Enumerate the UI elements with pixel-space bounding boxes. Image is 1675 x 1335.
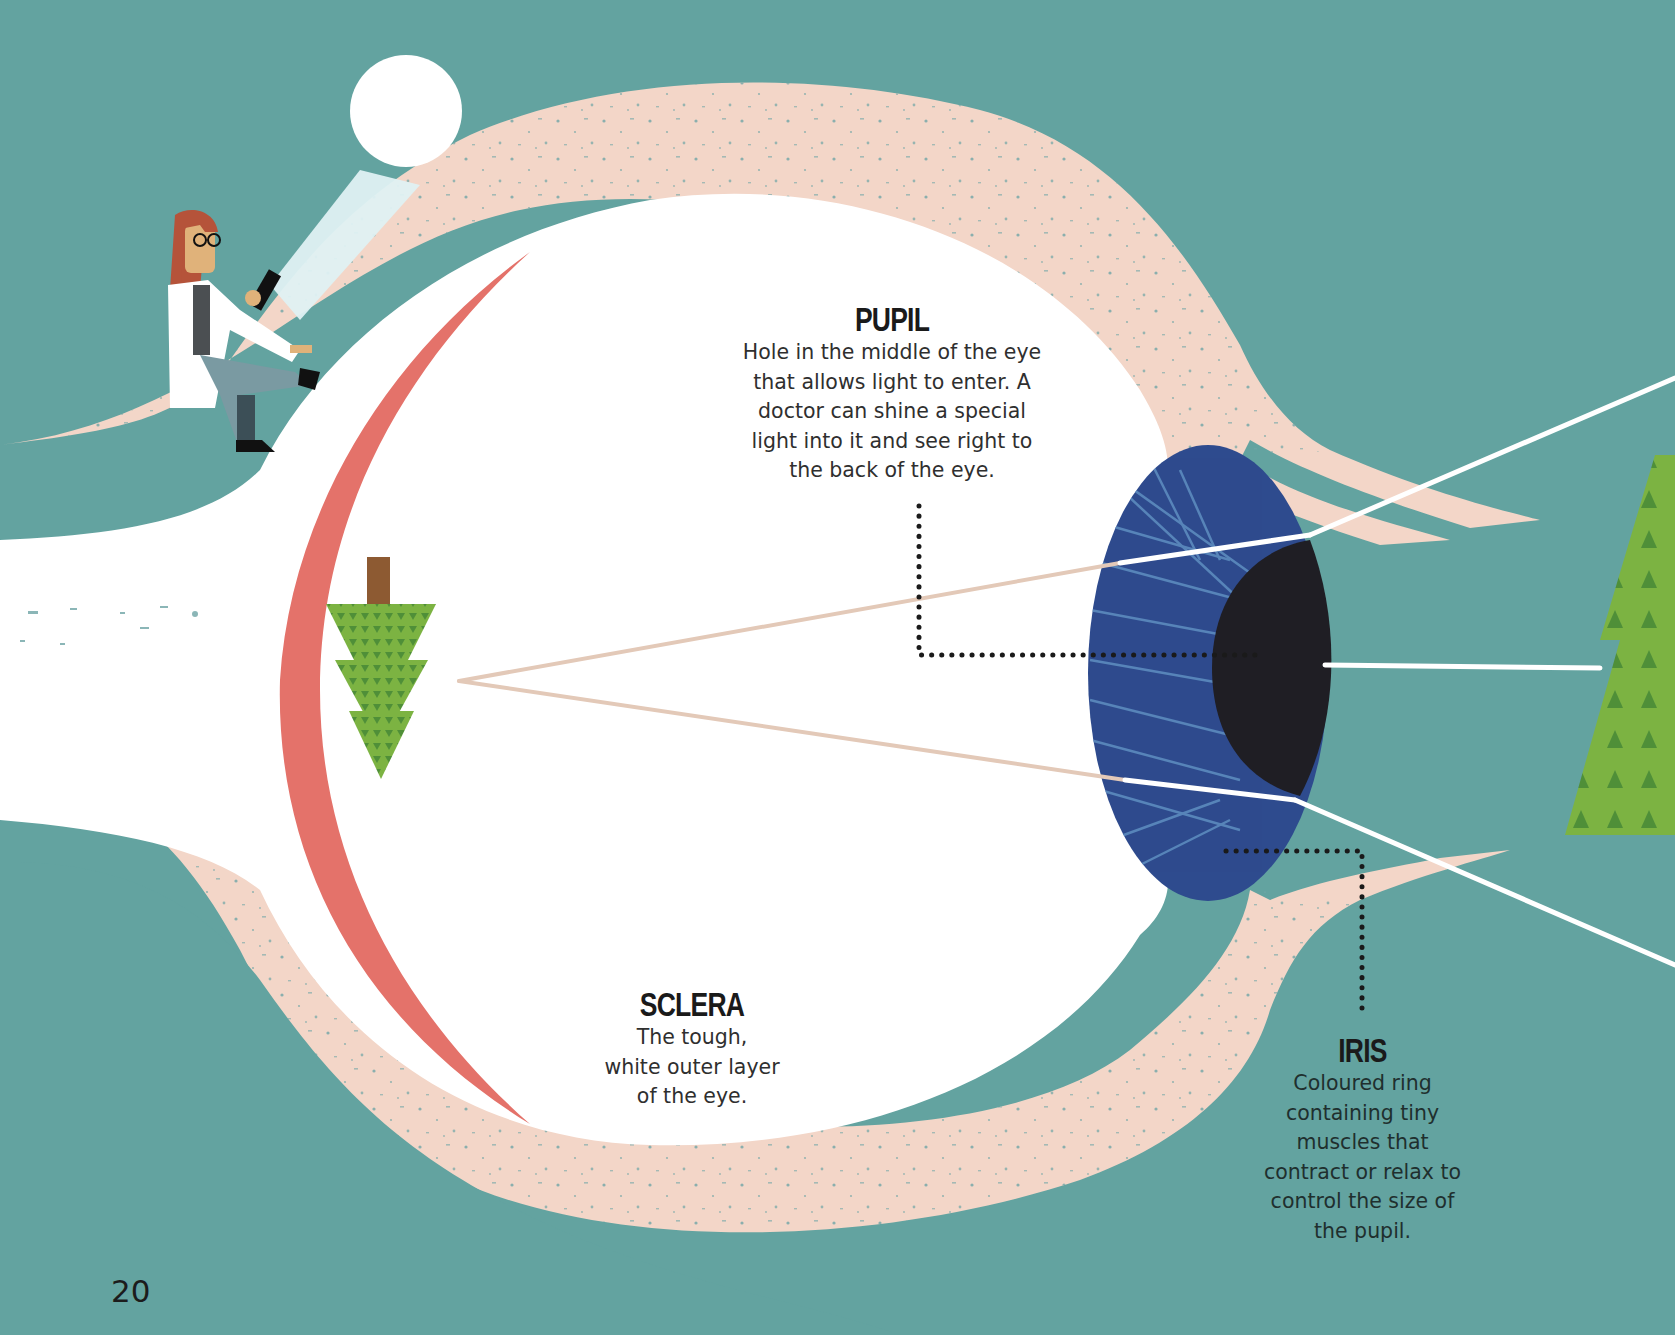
sclera-description-line: The tough,	[572, 1023, 812, 1053]
pupil-description-line: Hole in the middle of the eye	[712, 338, 1072, 368]
sclera-label: SCLERA The tough, white outer layer of t…	[572, 985, 812, 1112]
pupil-description-line: doctor can shine a special	[712, 397, 1072, 427]
sclera-description-line: white outer layer	[572, 1053, 812, 1083]
sclera-title: SCLERA	[598, 985, 785, 1023]
iris-description-line: control the size of	[1230, 1187, 1495, 1217]
pupil-description-line: light into it and see right to	[712, 427, 1072, 457]
iris-description-line: containing tiny	[1230, 1099, 1495, 1129]
iris-description-line: the pupil.	[1230, 1217, 1495, 1247]
pupil-description-line: that allows light to enter. A	[712, 368, 1072, 398]
page-number: 20	[111, 1273, 150, 1309]
pupil-title: PUPIL	[752, 300, 1033, 338]
iris-title: IRIS	[1259, 1031, 1466, 1069]
iris-description-line: Coloured ring	[1230, 1069, 1495, 1099]
pupil-description: Hole in the middle of the eye that allow…	[712, 338, 1072, 486]
pupil-label: PUPIL Hole in the middle of the eye that…	[712, 300, 1072, 486]
sclera-description-line: of the eye.	[572, 1082, 812, 1112]
iris-description: Coloured ring containing tiny muscles th…	[1230, 1069, 1495, 1246]
sclera-description: The tough, white outer layer of the eye.	[572, 1023, 812, 1112]
iris-label: IRIS Coloured ring containing tiny muscl…	[1230, 1031, 1495, 1246]
pupil-description-line: the back of the eye.	[712, 456, 1072, 486]
iris-description-line: contract or relax to	[1230, 1158, 1495, 1188]
light-spot	[350, 55, 462, 167]
iris-description-line: muscles that	[1230, 1128, 1495, 1158]
